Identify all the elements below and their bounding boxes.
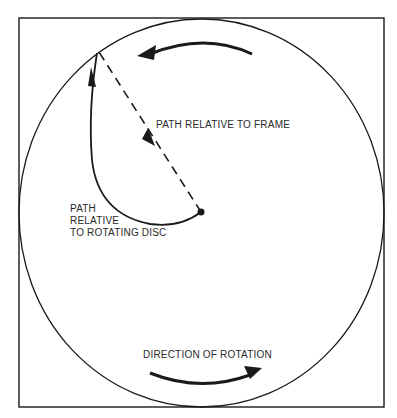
label-rotation-direction: DIRECTION OF ROTATION <box>143 349 272 360</box>
label-frame-path: PATH RELATIVE TO FRAME <box>156 119 290 130</box>
label-disc-path-line1: PATH <box>70 203 96 214</box>
diagram-canvas: PATH RELATIVE TO FRAME PATH RELATIVE TO … <box>0 0 397 418</box>
bottom-rotation-arrow-icon <box>150 366 262 384</box>
label-disc-path-line2: RELATIVE <box>70 215 119 226</box>
disc-center-point <box>198 209 205 216</box>
label-disc-path-line3: TO ROTATING DISC <box>70 227 167 238</box>
frame-path-dashed-line <box>99 52 201 212</box>
top-rotation-arrow-icon <box>137 43 252 60</box>
